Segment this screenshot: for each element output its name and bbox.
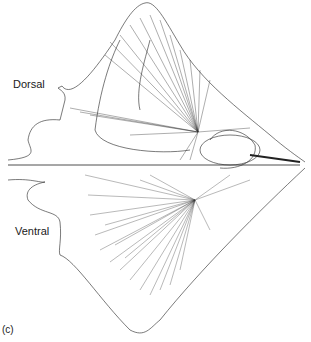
dorsal-outline: [8, 3, 305, 162]
ventral-outline: [8, 168, 305, 333]
panel-label: (c): [2, 324, 14, 335]
ray-line-drawing: [0, 0, 311, 342]
dorsal-label: Dorsal: [13, 78, 45, 90]
ray-anatomy-figure: Dorsal Ventral (c): [0, 0, 311, 342]
ventral-label: Ventral: [15, 225, 49, 237]
